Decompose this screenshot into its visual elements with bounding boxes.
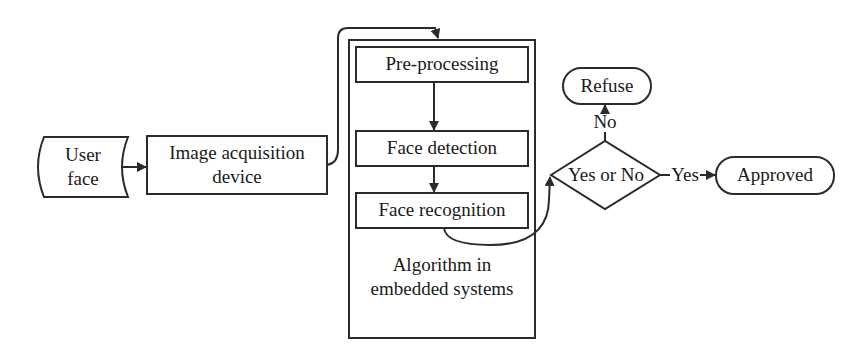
image-acquisition-line2: device	[147, 165, 327, 189]
user-face-label: User face	[44, 143, 122, 191]
container-label: Algorithm in embedded systems	[349, 253, 535, 301]
no-edge-label: No	[590, 110, 620, 134]
decision-label: Yes or No	[561, 163, 651, 187]
face-detection-label: Face detection	[356, 136, 528, 160]
container-line2: embedded systems	[349, 277, 535, 301]
approved-label: Approved	[716, 163, 834, 187]
image-acquisition-label: Image acquisition device	[147, 141, 327, 189]
refuse-label: Refuse	[563, 74, 651, 98]
user-face-line2: face	[44, 167, 122, 191]
image-acquisition-line1: Image acquisition	[147, 141, 327, 165]
container-line1: Algorithm in	[349, 253, 535, 277]
yes-edge-label: Yes	[668, 163, 702, 187]
face-recognition-label: Face recognition	[356, 198, 528, 222]
user-face-line1: User	[44, 143, 122, 167]
pre-processing-label: Pre-processing	[356, 52, 528, 76]
